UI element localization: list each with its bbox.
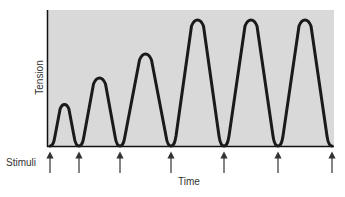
stimuli-label: Stimuli [6, 157, 36, 168]
stimulus-arrows [50, 155, 332, 173]
twitch-diagram [0, 0, 345, 197]
y-axis-label: Tension [34, 58, 45, 98]
x-axis-label: Time [178, 176, 200, 187]
